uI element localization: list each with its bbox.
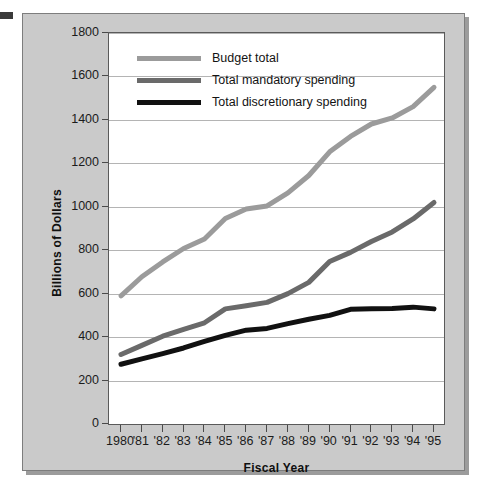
x-axis-tick-label: '89 — [300, 434, 316, 448]
legend-label-total-discretionary-spending: Total discretionary spending — [212, 95, 367, 109]
x-axis-tick-mark — [141, 425, 142, 432]
x-axis-tick-label: '90 — [321, 434, 337, 448]
x-axis-tick-mark — [266, 425, 267, 432]
x-axis-tick-mark — [183, 425, 184, 432]
x-axis-tick-mark — [308, 425, 309, 432]
chart-figure: Billions of Dollars 18001600140012001000… — [22, 13, 465, 471]
y-axis-tick-label: 1600 — [71, 68, 99, 82]
x-axis-tick-mark — [370, 425, 371, 432]
x-axis-tick-mark — [433, 425, 434, 432]
x-axis-tick-label: '85 — [216, 434, 232, 448]
y-axis-tick-label: 1400 — [71, 112, 99, 126]
x-axis-tick-label: '83 — [174, 434, 190, 448]
x-axis-tick-mark — [245, 425, 246, 432]
x-axis-tick-mark — [350, 425, 351, 432]
x-axis-tick-mark — [203, 425, 204, 432]
legend-swatch-budget-total — [137, 56, 201, 61]
x-axis-tick-label: '81 — [133, 434, 149, 448]
x-axis-tick-label: '94 — [404, 434, 420, 448]
x-axis-tick-label: '88 — [279, 434, 295, 448]
x-axis-tick-label: '95 — [425, 434, 441, 448]
y-axis-tick-label: 600 — [78, 286, 99, 300]
x-axis-tick-mark — [391, 425, 392, 432]
y-axis-tick-label: 1000 — [71, 199, 99, 213]
page-edge-marker — [0, 12, 13, 19]
y-axis-tick-label: 800 — [78, 242, 99, 256]
legend-swatch-total-mandatory-spending — [137, 78, 201, 83]
chart-legend: Budget total Total mandatory spending To… — [137, 47, 367, 113]
legend-item: Budget total — [137, 47, 367, 69]
y-axis-tick-label: 1200 — [71, 155, 99, 169]
legend-label-budget-total: Budget total — [212, 51, 279, 65]
legend-item: Total discretionary spending — [137, 91, 367, 113]
legend-swatch-total-discretionary-spending — [137, 100, 201, 105]
chart-canvas: Billions of Dollars 18001600140012001000… — [23, 14, 466, 472]
x-axis-tick-mark — [329, 425, 330, 432]
x-axis-tick-label: '91 — [341, 434, 357, 448]
x-axis-tick-mark — [224, 425, 225, 432]
x-axis-tick-label: '82 — [154, 434, 170, 448]
legend-label-total-mandatory-spending: Total mandatory spending — [212, 73, 355, 87]
series-line-budget-total — [121, 87, 434, 296]
y-axis-tick-label: 0 — [92, 416, 99, 430]
x-axis-tick-label: '87 — [258, 434, 274, 448]
x-axis-tick-mark — [287, 425, 288, 432]
x-axis-tick-mark — [162, 425, 163, 432]
legend-item: Total mandatory spending — [137, 69, 367, 91]
x-axis-tick-mark — [412, 425, 413, 432]
x-axis-tick-mark — [120, 425, 121, 432]
y-axis-tick-label: 1800 — [71, 25, 99, 39]
x-axis-tick-label: '86 — [237, 434, 253, 448]
y-axis-title: Billions of Dollars — [50, 189, 64, 297]
y-axis-tick-label: 400 — [78, 329, 99, 343]
x-axis-tick-label: '84 — [195, 434, 211, 448]
plot-area: Budget total Total mandatory spending To… — [108, 32, 445, 425]
series-line-total-mandatory-spending — [121, 202, 434, 354]
x-axis-title: Fiscal Year — [108, 461, 445, 475]
x-axis-tick-label: '92 — [362, 434, 378, 448]
x-axis-tick-label: 1980 — [106, 434, 134, 448]
y-axis-tick-label: 200 — [78, 373, 99, 387]
x-axis-tick-label: '93 — [383, 434, 399, 448]
